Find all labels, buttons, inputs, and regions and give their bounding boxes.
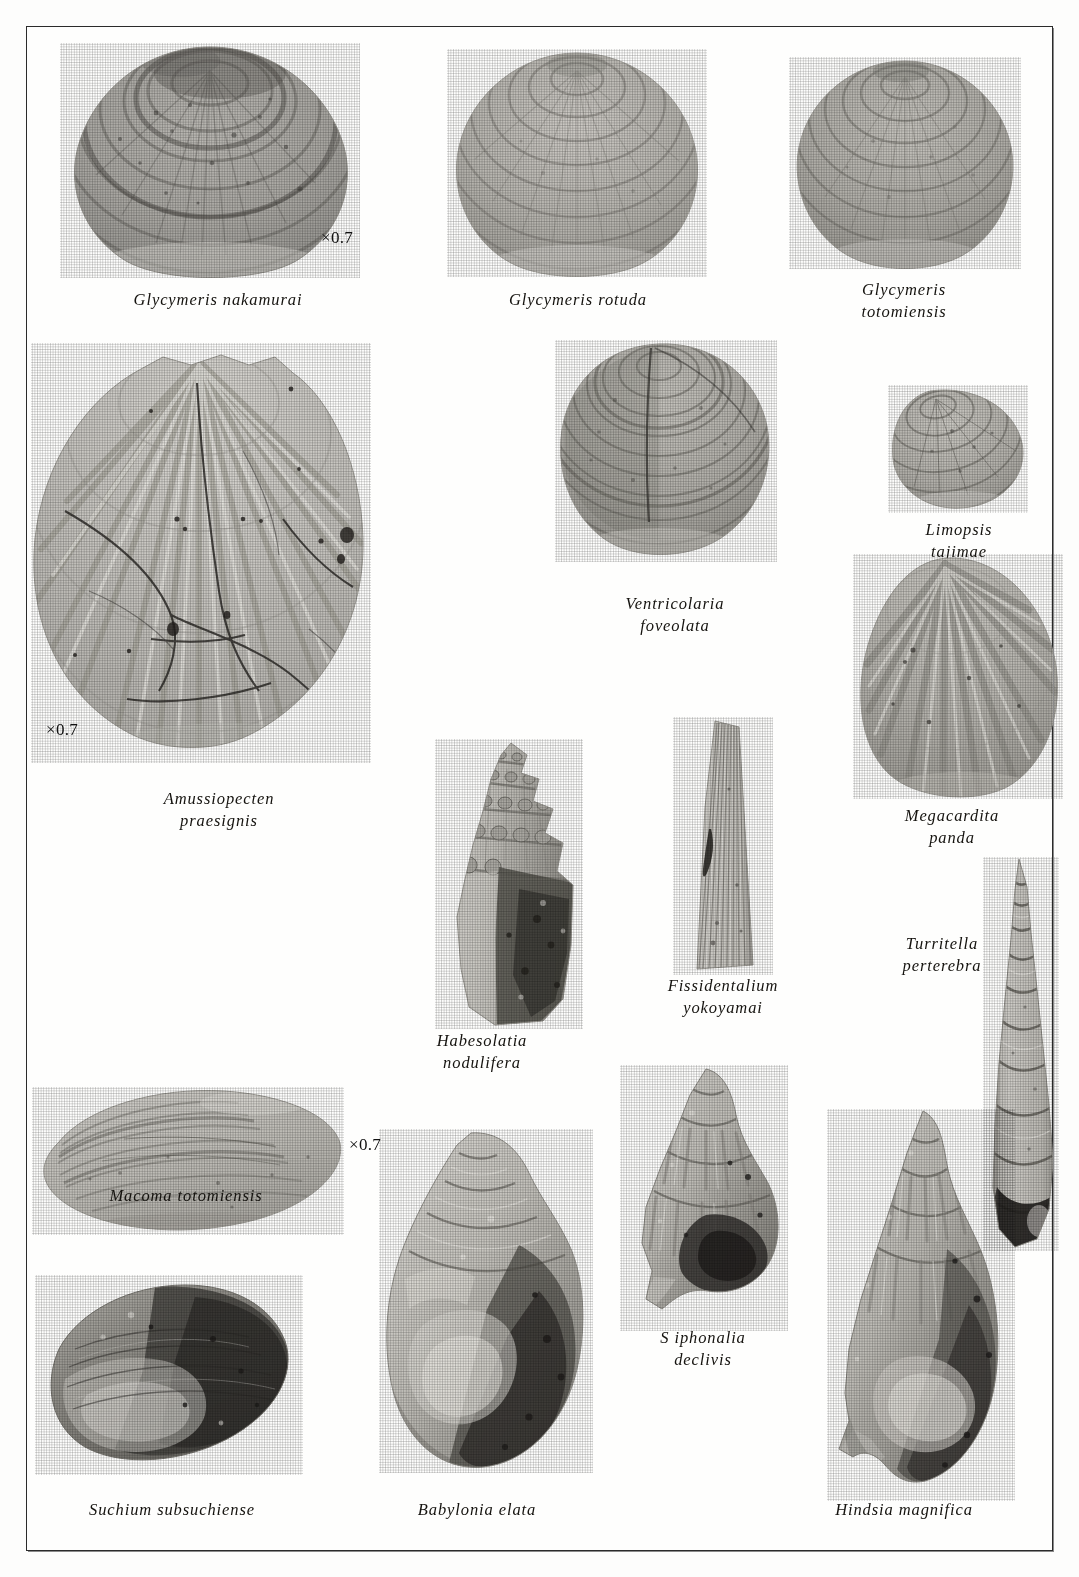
label-hindsia-magnifica: Hindsia magnifica (835, 1499, 973, 1521)
specimen-amussiopecten-praesignis (31, 343, 371, 763)
label-fissidentalium-yokoyamai: Fissidentalium yokoyamai (668, 975, 779, 1019)
specimen-megacardita-panda (853, 554, 1063, 799)
specimen-suchium-subsuchiense (35, 1275, 303, 1475)
label-glycymeris-rotuda: Glycymeris rotuda (509, 289, 647, 311)
plate-page: ×0.7 Glycymeris nakamurai (0, 0, 1079, 1577)
specimen-glycymeris-nakamurai (60, 43, 360, 278)
specimen-babylonia-elata (379, 1129, 593, 1473)
label-siphonalia-declivis: S iphonalia declivis (660, 1327, 746, 1371)
specimen-siphonalia-declivis (620, 1065, 788, 1331)
label-turritella-perterebra: Turritella perterebra (903, 933, 982, 977)
plate-frame: ×0.7 Glycymeris nakamurai (26, 26, 1053, 1551)
scale-macoma-totomiensis: ×0.7 (349, 1135, 381, 1155)
label-ventricolaria-foveolata: Ventricolaria foveolata (626, 593, 725, 637)
scale-glycymeris-nakamurai: ×0.7 (321, 228, 353, 248)
specimen-macoma-totomiensis (32, 1087, 344, 1235)
label-babylonia-elata: Babylonia elata (418, 1499, 536, 1521)
specimen-fissidentalium-yokoyamai (673, 717, 773, 975)
label-megacardita-panda: Megacardita panda (905, 805, 1000, 849)
label-habesolatia-nodulifera: Habesolatia nodulifera (437, 1030, 528, 1074)
label-macoma-totomiensis: Macoma totomiensis (109, 1185, 262, 1207)
specimen-habesolatia-nodulifera (435, 739, 583, 1029)
specimen-limopsis-tajimae (888, 385, 1028, 513)
label-amussiopecten-praesignis: Amussiopecten praesignis (164, 788, 275, 832)
specimen-hindsia-magnifica (827, 1109, 1015, 1501)
specimen-glycymeris-totomiensis (789, 57, 1021, 269)
specimen-glycymeris-rotuda (447, 49, 707, 277)
label-glycymeris-totomiensis: Glycymeris totomiensis (861, 279, 946, 323)
label-suchium-subsuchiense: Suchium subsuchiense (89, 1499, 255, 1521)
specimen-ventricolaria-foveolata (555, 340, 777, 562)
label-glycymeris-nakamurai: Glycymeris nakamurai (134, 289, 303, 311)
scale-amussiopecten-praesignis: ×0.7 (46, 720, 78, 740)
